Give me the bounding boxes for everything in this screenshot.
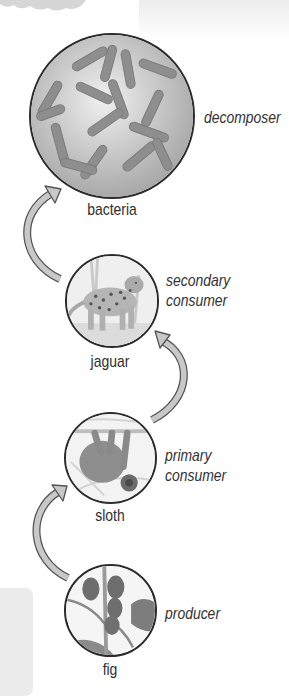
role-line-consumer: consumer xyxy=(165,466,226,486)
organism-label-fig: fig xyxy=(69,660,151,680)
organism-label-bacteria: bacteria xyxy=(71,200,153,220)
bacteria-icon xyxy=(31,35,193,197)
jaguar-circle xyxy=(65,254,159,348)
sloth-circle xyxy=(64,412,157,504)
bacteria-circle xyxy=(29,33,195,199)
role-label-decomposer: decomposer xyxy=(204,108,281,128)
jaguar-icon xyxy=(67,256,157,346)
role-label-secondary-consumer: secondary consumer xyxy=(166,271,230,311)
role-line-consumer: consumer xyxy=(166,291,230,311)
arrow-jaguar-to-bacteria xyxy=(27,186,61,279)
fig-circle xyxy=(64,564,157,657)
fig-icon xyxy=(66,566,155,655)
role-line-secondary: secondary xyxy=(166,271,230,291)
role-label-primary-consumer: primary consumer xyxy=(165,446,226,486)
organism-label-sloth: sloth xyxy=(69,506,151,526)
sloth-icon xyxy=(66,414,155,502)
role-label-producer: producer xyxy=(165,604,220,624)
arrow-sloth-to-jaguar xyxy=(152,331,184,420)
organism-label-jaguar: jaguar xyxy=(69,352,151,372)
arrow-fig-to-sloth xyxy=(36,485,68,578)
role-line-primary: primary xyxy=(165,446,226,466)
